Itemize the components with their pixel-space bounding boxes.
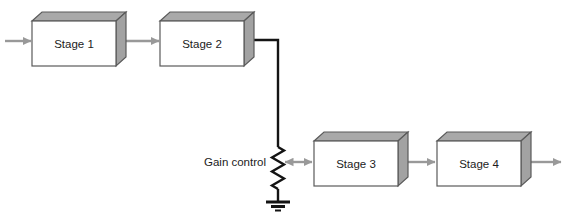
ground-icon [266, 202, 290, 211]
stage-1-box: Stage 1 [32, 12, 126, 66]
stage-3-box: Stage 3 [314, 132, 408, 186]
stage-1-top-face [32, 12, 126, 21]
stage-3-label: Stage 3 [336, 158, 376, 170]
stage-4-box: Stage 4 [437, 132, 531, 186]
diagram-canvas: Stage 1 Stage 2 Stage 3 Stage 4 Gain con… [0, 0, 571, 224]
gain-control-label: Gain control [204, 156, 266, 168]
resistor-icon [272, 147, 284, 189]
stage2-tap-line [253, 40, 278, 147]
block-diagram: Stage 1 Stage 2 Stage 3 Stage 4 Gain con… [0, 0, 571, 224]
stage-2-top-face [160, 12, 254, 21]
stage-4-label: Stage 4 [459, 158, 499, 170]
stage-3-top-face [314, 132, 408, 141]
stage-3-side-face [398, 132, 408, 186]
stage-1-side-face [116, 12, 126, 66]
stage-2-side-face [244, 12, 254, 66]
stage-2-label: Stage 2 [182, 38, 222, 50]
stage-4-side-face [521, 132, 531, 186]
stage-2-box: Stage 2 [160, 12, 254, 66]
stage-1-label: Stage 1 [54, 38, 94, 50]
stage-4-top-face [437, 132, 531, 141]
